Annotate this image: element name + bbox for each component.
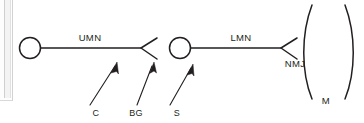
lmn-label: LMN [230, 32, 251, 43]
annotation-arrow-s [170, 64, 194, 105]
muscle-label: M [322, 95, 330, 106]
upper-motor-neuron-soma [20, 38, 41, 59]
muscle-right-arc [345, 5, 353, 99]
diagram-canvas: UMN LMN NMJ M C BG S [0, 0, 364, 123]
annotation-s-label: S [174, 108, 180, 118]
umn-label: UMN [79, 32, 102, 43]
motor-pathway-diagram: UMN LMN NMJ M C BG S [0, 0, 364, 123]
annotation-bg-arrowhead [150, 62, 157, 74]
annotation-arrow-c [90, 62, 119, 105]
annotation-bg-line [137, 66, 152, 105]
muscle-left-arc [304, 5, 312, 99]
lower-motor-neuron-soma [170, 38, 191, 59]
nmj-label: NMJ [285, 58, 306, 69]
lmn-axon-terminal [281, 38, 297, 59]
annotation-c-arrowhead [111, 62, 119, 74]
annotation-bg-label: BG [129, 108, 143, 118]
annotation-c-line [90, 66, 115, 105]
annotation-s-arrowhead [187, 64, 194, 76]
annotation-arrow-bg [137, 62, 157, 105]
annotation-c-label: C [93, 108, 100, 118]
umn-axon-terminal [141, 38, 157, 59]
